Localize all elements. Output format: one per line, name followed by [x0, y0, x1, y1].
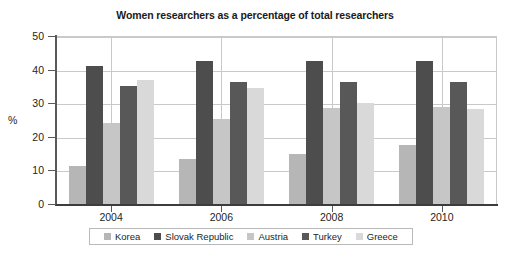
plot-area — [56, 36, 497, 204]
bar — [340, 82, 357, 204]
bar — [323, 108, 340, 204]
bar — [306, 61, 323, 204]
y-tick-mark — [48, 103, 56, 104]
legend-label: Slovak Republic — [165, 232, 233, 242]
bar — [196, 61, 213, 204]
x-tick-label: 2010 — [402, 212, 482, 223]
bar — [103, 123, 120, 204]
y-tick-label: 20 — [20, 132, 44, 143]
x-tick-label: 2008 — [292, 212, 372, 223]
bar — [289, 154, 306, 204]
y-tick-label: 50 — [20, 31, 44, 42]
bar — [69, 166, 86, 204]
y-tick-label: 10 — [20, 165, 44, 176]
y-tick-label: 30 — [20, 98, 44, 109]
legend-item[interactable]: Korea — [104, 232, 140, 242]
y-tick-label: 0 — [20, 199, 44, 210]
bar — [86, 66, 103, 204]
x-axis-line — [55, 204, 498, 206]
bar — [467, 109, 484, 204]
legend-item[interactable]: Slovak Republic — [154, 232, 233, 242]
y-tick-mark — [48, 204, 56, 205]
bar — [399, 145, 416, 204]
legend-item[interactable]: Austria — [247, 232, 288, 242]
legend-swatch-icon — [356, 233, 363, 240]
chart-figure: Women researchers as a percentage of tot… — [0, 0, 510, 258]
y-tick-mark — [48, 36, 56, 37]
legend-item[interactable]: Greece — [356, 232, 398, 242]
bar — [416, 61, 433, 204]
legend-swatch-icon — [154, 233, 161, 240]
y-tick-mark — [48, 137, 56, 138]
y-tick-mark — [48, 170, 56, 171]
chart-title: Women researchers as a percentage of tot… — [0, 9, 510, 21]
legend-label: Austria — [258, 232, 288, 242]
legend-swatch-icon — [302, 233, 309, 240]
bar — [450, 82, 467, 204]
bar — [357, 103, 374, 204]
legend-label: Turkey — [313, 232, 342, 242]
bar — [120, 86, 137, 204]
bar — [179, 159, 196, 204]
y-tick-label: 40 — [20, 65, 44, 76]
x-tick-label: 2006 — [181, 212, 261, 223]
bar — [230, 82, 247, 204]
legend-swatch-icon — [104, 233, 111, 240]
bar — [213, 119, 230, 204]
bar — [433, 107, 450, 204]
legend-swatch-icon — [247, 233, 254, 240]
y-tick-mark — [48, 70, 56, 71]
chart-legend: KoreaSlovak RepublicAustriaTurkeyGreece — [89, 228, 413, 245]
gridline — [56, 37, 497, 38]
bar — [247, 88, 264, 204]
bar — [137, 80, 154, 204]
legend-item[interactable]: Turkey — [302, 232, 342, 242]
y-axis-line — [55, 35, 57, 205]
legend-label: Korea — [115, 232, 140, 242]
x-tick-label: 2004 — [71, 212, 151, 223]
legend-label: Greece — [367, 232, 398, 242]
y-axis-title: % — [8, 114, 17, 126]
